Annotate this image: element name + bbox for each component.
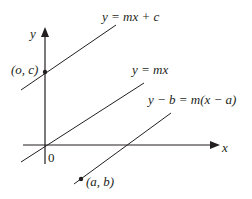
- point-y-intercept: [43, 70, 47, 74]
- label-y-intercept: (o, c): [11, 62, 38, 77]
- x-axis-label: x: [221, 140, 228, 155]
- origin-label: 0: [48, 150, 55, 165]
- y-axis-arrow-icon: [41, 27, 49, 37]
- label-y-mx-plus-c: y = mx + c: [100, 9, 159, 24]
- label-y-mx: y = mx: [130, 62, 168, 77]
- label-point-slope: y − b = m(x − a): [146, 92, 236, 107]
- label-point-a-b: (a, b): [86, 174, 114, 189]
- y-axis-label: y: [28, 26, 36, 41]
- line-equations-diagram: y x 0 y = mx + c y = mx y − b = m(x − a)…: [0, 0, 252, 199]
- point-a-b: [79, 177, 83, 181]
- x-axis-arrow-icon: [210, 141, 220, 149]
- line-y-mx: [21, 83, 144, 162]
